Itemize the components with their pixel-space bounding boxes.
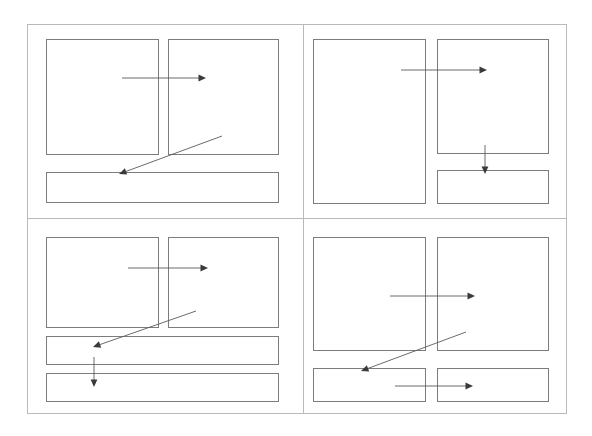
quadrant-bottom-left: [47, 238, 279, 402]
quadrant-top-left: [47, 40, 279, 203]
panel-b-left-tall[interactable]: [314, 40, 426, 204]
panel-c-right[interactable]: [169, 238, 279, 328]
panel-d-bottom-left[interactable]: [314, 369, 426, 402]
wireframe-scene: [0, 0, 592, 436]
panel-a-right[interactable]: [169, 40, 279, 155]
wireframe-canvas: [0, 0, 592, 436]
panel-c-bar-1[interactable]: [47, 337, 279, 365]
panel-d-right[interactable]: [438, 238, 549, 351]
panel-d-left[interactable]: [314, 238, 426, 351]
quadrant-bottom-right: [314, 238, 549, 402]
panel-a-left[interactable]: [47, 40, 159, 155]
panel-b-right-bottom[interactable]: [438, 171, 549, 204]
panel-a-bottom-bar[interactable]: [47, 173, 279, 203]
quadrant-top-right: [314, 40, 549, 204]
panel-b-right-top[interactable]: [438, 40, 549, 154]
arrow-a-right-to-bar-head: [119, 168, 127, 174]
panel-c-left[interactable]: [47, 238, 159, 328]
panel-d-bottom-right[interactable]: [438, 369, 549, 402]
panel-c-bar-2[interactable]: [47, 374, 279, 402]
